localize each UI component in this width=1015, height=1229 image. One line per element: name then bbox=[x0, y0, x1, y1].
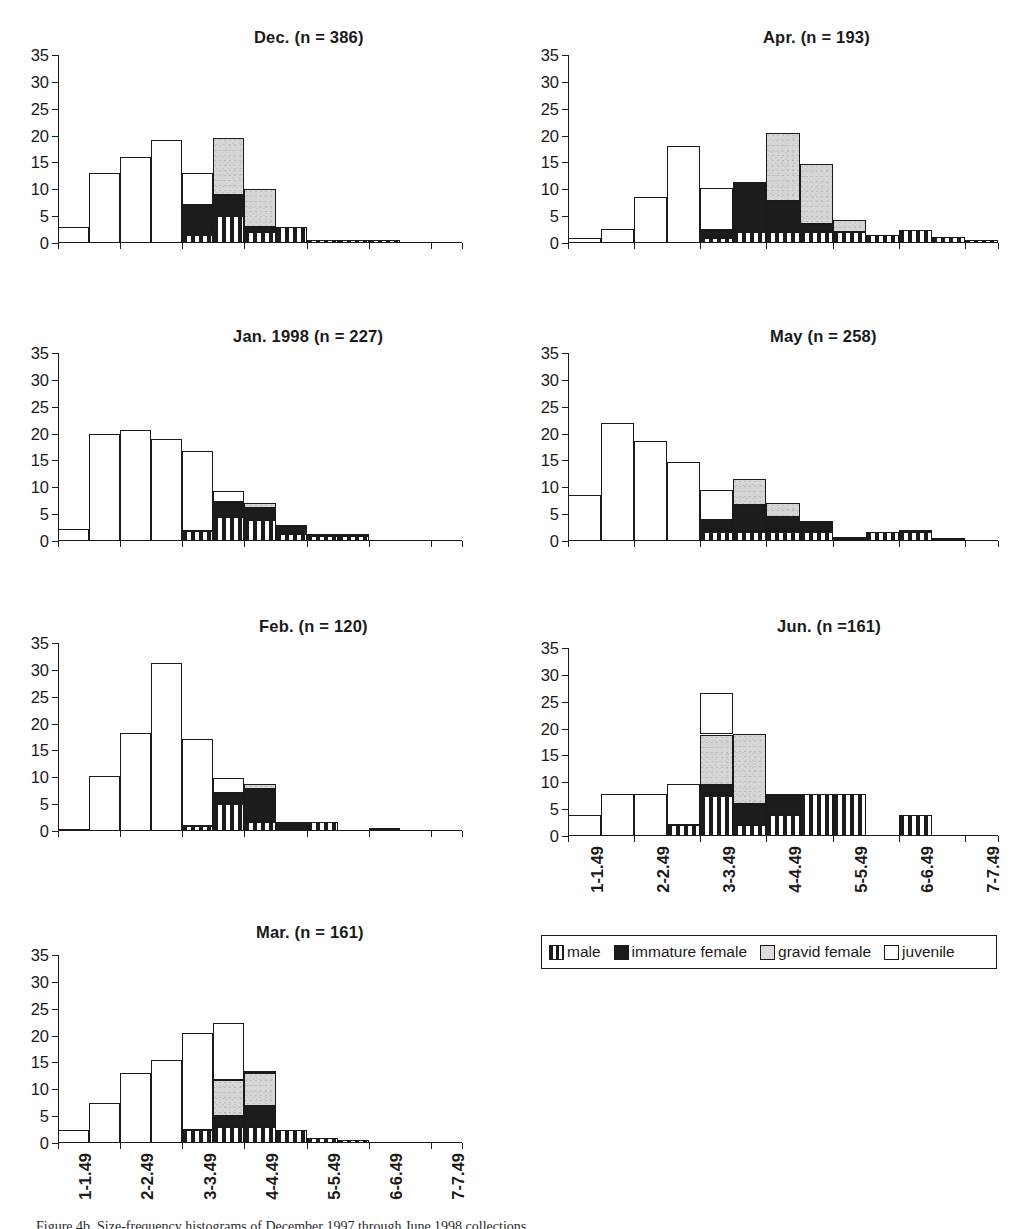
x-axis-tick-label: 4-4.49 bbox=[264, 1153, 281, 1200]
y-axis-tick-label: 15 bbox=[31, 1054, 49, 1071]
histogram-bar bbox=[213, 1023, 244, 1143]
y-axis-tick bbox=[52, 1062, 58, 1063]
bar-segment-juvenile bbox=[120, 1073, 151, 1143]
y-axis-tick-label: 25 bbox=[31, 1000, 49, 1017]
x-axis-tick-label: 6-6.49 bbox=[388, 1153, 405, 1200]
bar-segment-male bbox=[244, 1127, 275, 1143]
histogram-bar bbox=[58, 1130, 89, 1143]
x-axis-tick-label: 3-3.49 bbox=[202, 1153, 219, 1200]
y-axis-tick bbox=[52, 982, 58, 983]
legend-label-juvenile: juvenile bbox=[902, 944, 955, 960]
x-axis-tick bbox=[369, 1143, 370, 1149]
y-axis-tick bbox=[52, 1089, 58, 1090]
x-axis-tick-label: 5-5.49 bbox=[326, 1153, 343, 1200]
histogram-bar bbox=[120, 1073, 151, 1143]
figure-size-frequency-histograms: Dec. (n = 386)05101520253035Apr. (n = 19… bbox=[0, 0, 1015, 1229]
histogram-bar bbox=[244, 1072, 275, 1143]
bar-segment-immature bbox=[213, 1116, 244, 1127]
vertical-stripe-swatch bbox=[549, 945, 564, 960]
legend-item-juvenile: juvenile bbox=[884, 944, 955, 960]
y-axis-tick-label: 30 bbox=[31, 974, 49, 991]
y-axis-tick bbox=[52, 955, 58, 956]
x-axis-tick bbox=[307, 1143, 308, 1149]
x-axis-tick bbox=[244, 1143, 245, 1149]
y-axis-tick-label: 20 bbox=[31, 1027, 49, 1044]
y-axis-tick-label: 10 bbox=[31, 1081, 49, 1098]
bar-segment-male bbox=[276, 1130, 307, 1143]
y-axis-tick bbox=[52, 1116, 58, 1117]
gray-swatch bbox=[760, 945, 775, 960]
bar-segment-gravid bbox=[244, 1073, 275, 1106]
bar-segment-male bbox=[182, 1130, 213, 1143]
y-axis-line bbox=[58, 955, 59, 1143]
y-axis-tick-label: 0 bbox=[40, 1135, 49, 1152]
y-axis-tick-label: 35 bbox=[31, 947, 49, 964]
histogram-bar bbox=[182, 1033, 213, 1143]
legend-label-immature: immature female bbox=[632, 944, 747, 960]
x-axis-tick bbox=[58, 1143, 59, 1149]
panel-title-mar: Mar. (n = 161) bbox=[256, 923, 364, 942]
histogram-bar bbox=[151, 1060, 182, 1143]
legend-label-gravid: gravid female bbox=[778, 944, 871, 960]
x-axis-tick bbox=[431, 1143, 432, 1149]
figure-caption: Figure 4b. Size-frequency histograms of … bbox=[36, 1218, 981, 1229]
x-axis-tick-label: 1-1.49 bbox=[77, 1153, 94, 1200]
bar-segment-juvenile bbox=[182, 1033, 213, 1130]
y-axis-tick bbox=[52, 1036, 58, 1037]
y-axis-tick-label: 5 bbox=[40, 1108, 49, 1125]
black-swatch bbox=[614, 945, 629, 960]
histogram-bar bbox=[338, 1140, 369, 1143]
bar-segment-juvenile bbox=[151, 1060, 182, 1143]
histogram-bar bbox=[89, 1103, 120, 1143]
bar-segment-male bbox=[213, 1127, 244, 1143]
bar-segment-juvenile bbox=[58, 1130, 89, 1143]
y-axis-tick bbox=[52, 1009, 58, 1010]
x-axis-tick-label: 7-7.49 bbox=[450, 1153, 467, 1200]
histogram-bar bbox=[276, 1130, 307, 1143]
bar-segment-male bbox=[338, 1140, 369, 1143]
bar-segment-immature bbox=[244, 1106, 275, 1126]
x-axis-tick bbox=[182, 1143, 183, 1149]
legend-label-male: male bbox=[567, 944, 601, 960]
bar-segment-male bbox=[307, 1138, 338, 1143]
bar-segment-juvenile bbox=[213, 1023, 244, 1079]
x-axis-tick bbox=[462, 1143, 463, 1149]
legend-item-male: male bbox=[549, 944, 601, 960]
legend-item-immature: immature female bbox=[614, 944, 747, 960]
chart-legend: maleimmature femalegravid femalejuvenile bbox=[541, 935, 997, 969]
white-swatch bbox=[884, 945, 899, 960]
plot-area-mar: 051015202530351-1.492-2.493-3.494-4.495-… bbox=[58, 955, 462, 1143]
bar-segment-gravid bbox=[213, 1080, 244, 1117]
legend-item-gravid: gravid female bbox=[760, 944, 871, 960]
bar-segment-juvenile bbox=[244, 1071, 275, 1073]
x-axis-tick-label: 2-2.49 bbox=[139, 1153, 156, 1200]
x-axis-tick bbox=[120, 1143, 121, 1149]
chart-panel-mar: Mar. (n = 161)051015202530351-1.492-2.49… bbox=[0, 0, 1015, 1229]
bar-segment-juvenile bbox=[89, 1103, 120, 1143]
histogram-bar bbox=[307, 1138, 338, 1143]
